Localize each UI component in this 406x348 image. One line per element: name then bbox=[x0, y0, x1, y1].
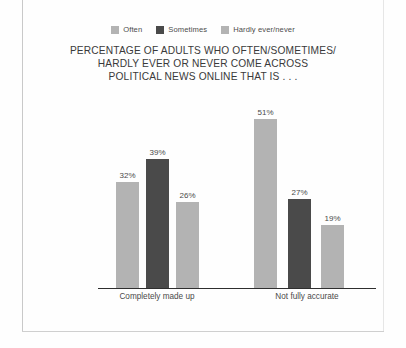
bar-made-up-sometimes[interactable]: 39% bbox=[146, 159, 169, 288]
x-axis-line bbox=[98, 288, 376, 289]
bar-not-accurate-hardly-rect bbox=[321, 225, 344, 288]
bar-not-accurate-sometimes[interactable]: 27% bbox=[288, 199, 311, 288]
chart-page: OftenSometimesHardly ever/never PERCENTA… bbox=[0, 0, 406, 348]
bar-made-up-often[interactable]: 32% bbox=[116, 182, 139, 288]
bar-not-accurate-sometimes-rect bbox=[288, 199, 311, 288]
bar-not-accurate-often-rect bbox=[254, 119, 277, 288]
bar-not-accurate-hardly[interactable]: 19% bbox=[321, 225, 344, 288]
bar-made-up-sometimes-value-label: 39% bbox=[149, 148, 165, 157]
category-label-2: Not fully accurate bbox=[238, 292, 376, 301]
bar-made-up-often-value-label: 32% bbox=[119, 171, 135, 180]
bar-made-up-hardly-value-label: 26% bbox=[179, 191, 195, 200]
bar-made-up-sometimes-rect bbox=[146, 159, 169, 288]
bar-not-accurate-sometimes-value-label: 27% bbox=[291, 188, 307, 197]
bar-made-up-often-rect bbox=[116, 182, 139, 288]
bar-not-accurate-often-value-label: 51% bbox=[257, 108, 273, 117]
bar-made-up-hardly[interactable]: 26% bbox=[176, 202, 199, 288]
bar-not-accurate-often[interactable]: 51% bbox=[254, 119, 277, 288]
bar-not-accurate-hardly-value-label: 19% bbox=[324, 214, 340, 223]
bar-made-up-hardly-rect bbox=[176, 202, 199, 288]
category-label-1: Completely made up bbox=[98, 292, 216, 301]
plot-area: 32%39%26%51%27%19%Completely made upNot … bbox=[0, 0, 406, 348]
